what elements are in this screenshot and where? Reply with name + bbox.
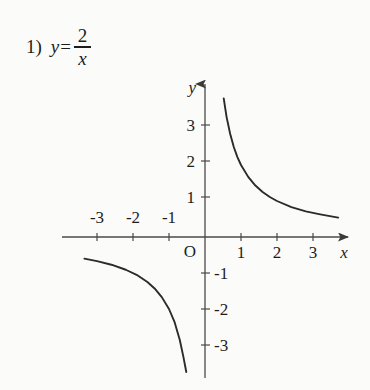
y-tick-label-3: 3 xyxy=(187,116,196,135)
x-axis-label: x xyxy=(339,243,348,262)
y-tick-label-neg1: -1 xyxy=(214,264,228,283)
x-tick-label-3: 3 xyxy=(309,243,318,262)
y-axis-label: y xyxy=(186,78,196,97)
x-tick-label-neg1: -1 xyxy=(162,208,176,227)
x-tick-label-neg2: -2 xyxy=(126,208,140,227)
curve-branch-quadrant-1 xyxy=(224,98,338,217)
y-tick-label-2: 2 xyxy=(187,152,196,171)
x-tick-label-1: 1 xyxy=(237,243,246,262)
curve-branch-quadrant-3 xyxy=(84,259,186,372)
y-tick-label-neg2: -2 xyxy=(214,300,228,319)
graph-plot: -3 -2 -1 1 2 3 3 2 1 -1 -2 -3 O y x xyxy=(0,0,370,390)
y-tick-label-neg3: -3 xyxy=(214,336,228,355)
origin-label: O xyxy=(184,242,196,261)
x-tick-label-neg3: -3 xyxy=(90,208,104,227)
y-tick-label-1: 1 xyxy=(187,188,196,207)
figure-container: 1) y = 2 x xyxy=(0,0,370,390)
x-tick-label-2: 2 xyxy=(273,243,282,262)
